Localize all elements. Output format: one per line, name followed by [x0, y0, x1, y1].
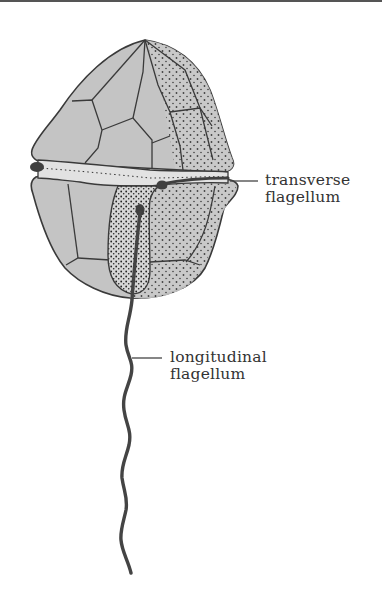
transverse-label-line2: flagellum [265, 189, 350, 206]
longitudinal-flagellum-label: longitudinal flagellum [170, 349, 267, 383]
longitudinal-label-line2: flagellum [170, 366, 267, 383]
transverse-flagellum-label: transverse flagellum [265, 172, 350, 206]
dinoflagellate-illustration [0, 0, 382, 596]
longitudinal-label-line1: longitudinal [170, 349, 267, 366]
transverse-label-line1: transverse [265, 172, 350, 189]
epitheca [32, 40, 234, 172]
